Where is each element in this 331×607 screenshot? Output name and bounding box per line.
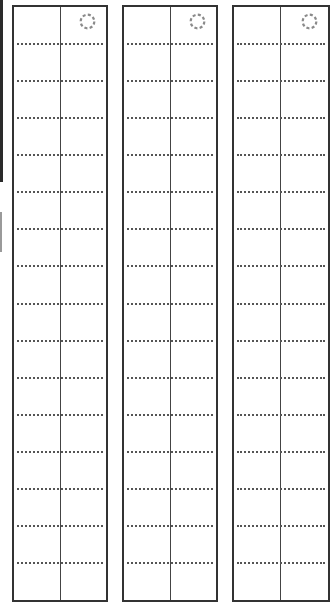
dotted-row-rule [17, 80, 103, 82]
dotted-row-rule [17, 377, 103, 379]
dotted-row-rule [237, 43, 325, 45]
dotted-row-rule [17, 43, 103, 45]
column-2 [122, 5, 218, 602]
dotted-row-rule [127, 451, 213, 453]
dotted-row-rule [127, 488, 213, 490]
dotted-row-rule [17, 154, 103, 156]
scan-edge-shadow [0, 0, 3, 182]
dotted-row-rule [17, 488, 103, 490]
dotted-row-rule [127, 43, 213, 45]
dotted-row-rule [17, 451, 103, 453]
dotted-row-rule [127, 377, 213, 379]
dotted-row-rule [17, 303, 103, 305]
dotted-row-rule [17, 191, 103, 193]
dotted-row-rule [237, 191, 325, 193]
dotted-row-rule [127, 562, 213, 564]
dotted-row-rule [237, 525, 325, 527]
dotted-row-rule [237, 451, 325, 453]
dotted-row-rule [17, 562, 103, 564]
dotted-row-rule [17, 117, 103, 119]
dotted-row-rule [237, 340, 325, 342]
dotted-row-rule [17, 414, 103, 416]
dashed-circle-icon [79, 13, 96, 30]
dotted-row-rule [237, 562, 325, 564]
dotted-row-rule [237, 377, 325, 379]
dashed-circle-icon [189, 13, 206, 30]
dotted-row-rule [17, 525, 103, 527]
dotted-row-rule [237, 228, 325, 230]
dotted-row-rule [127, 80, 213, 82]
dotted-row-rule [17, 340, 103, 342]
dotted-row-rule [127, 154, 213, 156]
dotted-row-rule [127, 117, 213, 119]
dotted-row-rule [127, 191, 213, 193]
dotted-row-rule [127, 414, 213, 416]
column-1 [12, 5, 108, 602]
dashed-circle-icon [301, 13, 318, 30]
dotted-row-rule [127, 525, 213, 527]
dotted-row-rule [237, 414, 325, 416]
dotted-row-rule [127, 303, 213, 305]
dotted-row-rule [237, 265, 325, 267]
dotted-row-rule [127, 228, 213, 230]
scan-edge-shadow-faint [0, 212, 2, 252]
column-3 [232, 5, 330, 602]
dotted-row-rule [237, 80, 325, 82]
dotted-row-rule [237, 303, 325, 305]
dotted-row-rule [237, 154, 325, 156]
dotted-row-rule [127, 340, 213, 342]
dotted-row-rule [17, 228, 103, 230]
dotted-row-rule [127, 265, 213, 267]
dotted-row-rule [237, 117, 325, 119]
dotted-row-rule [237, 488, 325, 490]
dotted-row-rule [17, 265, 103, 267]
